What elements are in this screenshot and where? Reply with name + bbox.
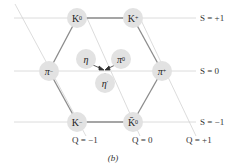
particle-piplus: π+	[152, 61, 172, 81]
particle-etaprime: η′	[95, 73, 115, 93]
charge-label: Q = +1	[186, 135, 212, 145]
particle-Kminus: K−	[67, 112, 87, 132]
strangeness-label: S = 0	[200, 66, 219, 76]
strangeness-label: S = −1	[200, 117, 224, 127]
particle-piminus: π−	[39, 61, 59, 81]
particle-K0bar: K̄0	[123, 112, 143, 132]
figure-caption: (b)	[108, 153, 119, 163]
particle-Kplus: K+	[123, 8, 143, 28]
particle-eta: η	[76, 49, 96, 69]
charge-label: Q = 0	[132, 135, 153, 145]
particle-K0: K0	[67, 8, 87, 28]
charge-label: Q = −1	[72, 135, 98, 145]
particle-pi0: π0	[111, 49, 131, 69]
strangeness-label: S = +1	[200, 13, 224, 23]
